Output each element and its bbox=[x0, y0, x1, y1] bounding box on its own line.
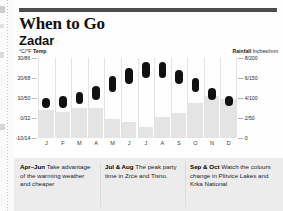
x-tick-month: J bbox=[38, 140, 55, 146]
y-tick-rainfall: — 8/200 bbox=[238, 55, 258, 61]
x-tick-month: S bbox=[171, 140, 188, 146]
rainfall-bar bbox=[39, 110, 54, 138]
x-tick-month: A bbox=[154, 140, 171, 146]
rainfall-bar bbox=[172, 113, 187, 138]
tip-sep-oct: Sep & Oct Watch the colours change in Pl… bbox=[190, 163, 278, 189]
header-rule bbox=[19, 8, 277, 12]
temperature-range-bar bbox=[159, 62, 167, 78]
temp-legend-label: Temp bbox=[33, 48, 46, 54]
x-tick-month: M bbox=[104, 140, 121, 146]
tip-separator bbox=[185, 162, 186, 207]
tip-separator bbox=[100, 162, 101, 207]
edge-artifact bbox=[0, 24, 4, 28]
temperature-range-bar bbox=[208, 88, 216, 100]
x-tick-month: A bbox=[88, 140, 105, 146]
x-tick-month: F bbox=[55, 140, 72, 146]
edge-artifact bbox=[0, 124, 5, 130]
y-tick-rainfall: — 6/150 bbox=[238, 75, 258, 81]
x-tick-month: N bbox=[204, 140, 221, 146]
y-tick-temperature: 20/68 — bbox=[17, 75, 37, 81]
temperature-range-bar bbox=[92, 86, 100, 100]
temperature-range-bar bbox=[175, 70, 183, 84]
y-tick-temperature: -10/14 — bbox=[16, 135, 37, 141]
x-tick-month: J bbox=[138, 140, 155, 146]
rainfall-legend: Rainfall Inches/mm bbox=[232, 48, 278, 54]
page-title: When to Go bbox=[19, 14, 105, 33]
scan-dotted-line bbox=[7, 0, 8, 211]
rainfall-bar bbox=[105, 119, 120, 138]
rainfall-bar bbox=[188, 103, 203, 138]
x-tick-month: J bbox=[121, 140, 138, 146]
rainfall-bar bbox=[205, 96, 220, 138]
x-tick-month: D bbox=[220, 140, 237, 146]
temperature-range-bar bbox=[109, 76, 117, 92]
temperature-range-bar bbox=[125, 68, 133, 84]
tip-jul-aug: Jul & Aug The peak party time in Zrće an… bbox=[105, 163, 181, 180]
temperature-range-bar bbox=[142, 62, 150, 78]
rainfall-bar bbox=[139, 127, 154, 138]
rain-legend-units: Inches/mm bbox=[253, 48, 278, 54]
page-subtitle: Zadar bbox=[19, 33, 54, 48]
tips-band: Apr–Jun Take advantage of the warming we… bbox=[14, 158, 283, 211]
temperature-range-bar bbox=[192, 78, 200, 92]
y-tick-temperature: 10/50 — bbox=[17, 95, 37, 101]
x-tick-month: M bbox=[71, 140, 88, 146]
content-column: When to Go Zadar °C/°F Temp Rainfall Inc… bbox=[14, 0, 283, 211]
temperature-range-bar bbox=[42, 98, 50, 108]
rainfall-bar bbox=[122, 122, 137, 138]
y-tick-rainfall: — 0 bbox=[238, 135, 248, 141]
temperature-range-bar bbox=[225, 96, 233, 106]
rainfall-bar bbox=[72, 108, 87, 138]
y-tick-rainfall: — 4/100 bbox=[238, 95, 258, 101]
y-axis-temperature: 30/86 —20/68 —10/50 —0/32 —-10/14 — bbox=[14, 58, 37, 138]
climate-chart: °C/°F Temp Rainfall Inches/mm 30/86 —20/… bbox=[14, 48, 283, 152]
tip-months-label: Sep & Oct bbox=[190, 163, 220, 170]
temperature-legend: °C/°F Temp bbox=[19, 48, 46, 54]
temp-legend-units: °C/°F bbox=[19, 48, 32, 54]
page-canvas: When to Go Zadar °C/°F Temp Rainfall Inc… bbox=[0, 0, 283, 211]
rainfall-bar bbox=[89, 108, 104, 138]
edge-artifact bbox=[0, 52, 4, 58]
tip-months-label: Apr–Jun bbox=[20, 163, 45, 170]
temperature-range-bar bbox=[76, 92, 84, 104]
x-axis-months: JFMAMJJASOND bbox=[38, 140, 237, 150]
plot-area bbox=[38, 58, 237, 138]
scan-edge bbox=[0, 0, 14, 211]
tip-months-label: Jul & Aug bbox=[105, 163, 134, 170]
y-tick-temperature: 0/32 — bbox=[20, 115, 37, 121]
rainfall-bar bbox=[56, 112, 71, 138]
y-axis-rainfall: — 8/200— 6/150— 4/100— 2/50— 0 bbox=[238, 58, 283, 138]
rainfall-bar bbox=[155, 117, 170, 138]
y-tick-rainfall: — 2/50 bbox=[238, 115, 255, 121]
tip-apr-jun: Apr–Jun Take advantage of the warming we… bbox=[20, 163, 96, 189]
edge-artifact bbox=[0, 6, 5, 13]
temperature-range-bar bbox=[59, 96, 67, 108]
x-tick-month: O bbox=[187, 140, 204, 146]
rain-legend-label: Rainfall bbox=[232, 48, 251, 54]
y-tick-temperature: 30/86 — bbox=[17, 55, 37, 61]
